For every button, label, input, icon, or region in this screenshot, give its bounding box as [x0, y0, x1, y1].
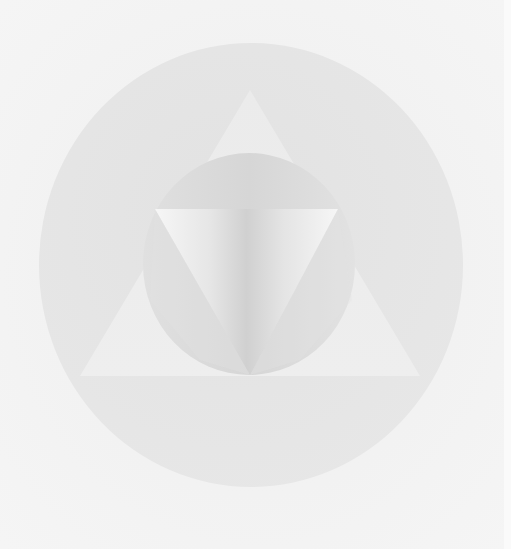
paper-edge — [504, 0, 511, 549]
geometric-composition — [0, 0, 511, 549]
artwork-canvas — [0, 0, 511, 549]
